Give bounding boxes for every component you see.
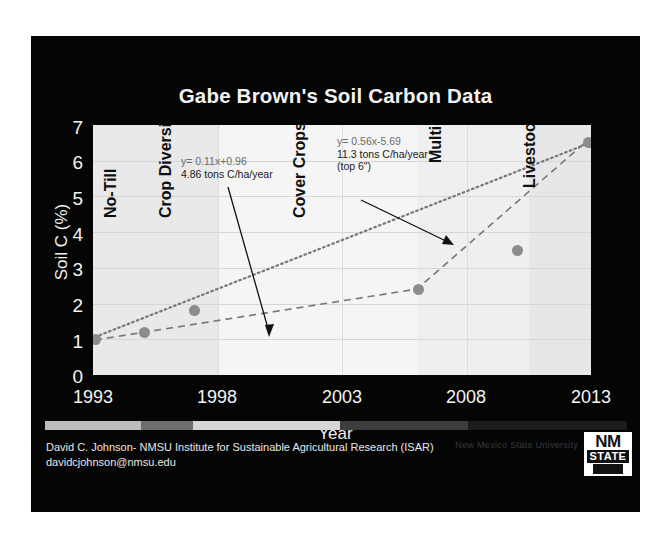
state-outline-icon [593,464,623,474]
plot-area: y= 0.11x+0.96 4.86 tons C/ha/year y= 0.5… [93,125,591,375]
annotation-note: (top 6") [337,160,428,173]
y-tick-3: 3 [57,260,83,279]
annotation-arrowhead-right [442,235,454,245]
y-tick-2: 2 [57,296,83,315]
x-tick-1993: 1993 [58,388,128,406]
y-tick-6: 6 [57,153,83,172]
annotation-early-regression: y= 0.11x+0.96 4.86 tons C/ha/year [181,155,273,180]
annotation-rate: 4.86 tons C/ha/year [181,168,273,181]
y-tick-1: 1 [57,332,83,351]
y-tick-0: 0 [57,367,83,386]
y-tick-4: 4 [57,225,83,244]
credit-line-1: David C. Johnson- NMSU Institute for Sus… [46,440,434,455]
data-point [93,334,101,345]
divider-segment [193,421,340,430]
credit-line-2[interactable]: davidcjohnson@nmsu.edu [46,455,434,470]
slide-canvas: Gabe Brown's Soil Carbon Data Soil C (%)… [31,36,640,512]
decorative-divider [45,421,627,430]
phase-label-no-till: No-Till [102,169,120,218]
annotation-arrowhead-left [265,324,274,337]
page-title: Gabe Brown's Soil Carbon Data [31,84,640,108]
phase-label-cover-crops: Cover Crops [291,125,309,218]
annotation-arrow-left [228,187,269,332]
annotation-rate: 11.3 tons C/ha/year [337,148,428,161]
phase-label-crop-diversity: Crop Diversity [157,125,175,218]
annotation-equation: y= 0.11x+0.96 [181,155,247,167]
data-point [139,327,150,338]
y-tick-5: 5 [57,189,83,208]
divider-segment [340,421,468,430]
university-name: New Mexico State University [455,440,578,450]
divider-segment [468,421,627,430]
phase-label-livestock-integration: Livestock Integration [521,125,539,188]
logo-nm-text: NM [584,433,632,450]
annotation-arrow-right [361,200,448,242]
x-tick-2003: 2003 [307,388,377,406]
annotation-late-regression: y= 0.56x-5.69 11.3 tons C/ha/year (top 6… [337,135,428,173]
x-tick-2008: 2008 [431,388,501,406]
data-point [512,245,523,256]
x-tick-1998: 1998 [182,388,252,406]
nmsu-logo: NM STATE [584,432,632,476]
x-tick-2013: 2013 [556,388,626,406]
data-point [413,284,424,295]
phase-label-multi-species-cover-crops: Multi-Species Cover Crops [427,125,445,163]
divider-segment [45,421,141,430]
annotation-equation: y= 0.56x-5.69 [337,135,401,147]
credit-text: David C. Johnson- NMSU Institute for Sus… [46,440,434,469]
logo-state-text: STATE [587,450,629,463]
divider-segment [141,421,193,430]
y-tick-7: 7 [57,118,83,137]
